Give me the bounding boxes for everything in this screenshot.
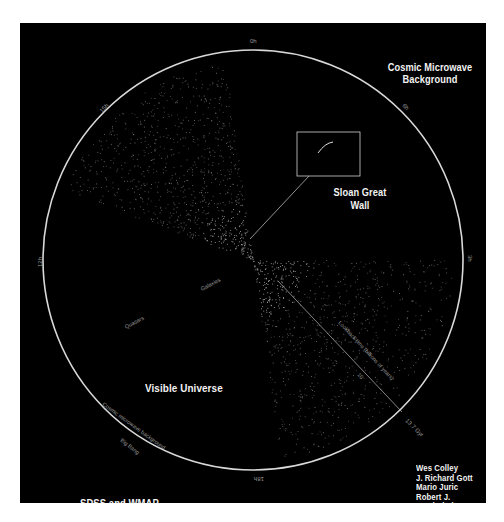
quasars-label: Quasars: [124, 315, 145, 330]
sgw-label-line1: Sloan Great: [312, 186, 409, 199]
tick-15h: 15h: [98, 102, 109, 113]
credits: Wes Colley J. Richard Gott Mario Juric R…: [416, 464, 479, 503]
cmb-label-line1: Cosmic Microwave: [368, 61, 486, 73]
tick-12h: 12h: [37, 257, 43, 267]
cmb-arc-label: Cosmic microwave background: [101, 401, 166, 451]
sloan-great-wall-arc: [318, 142, 333, 153]
tick-6h: 6h: [401, 102, 410, 111]
visible-universe-label: Visible Universe: [145, 382, 223, 394]
lookback-tick-10: 10: [356, 372, 365, 381]
source-label: SDSS and WMAP: [80, 497, 159, 503]
sgw-label-line2: Wall: [312, 199, 409, 212]
sloan-great-wall-label: Sloan Great Wall: [312, 186, 409, 212]
tick-lookback-end: 13.7 Gyr: [404, 417, 425, 438]
universe-map-svg: 0h 6h 3h 12h 15h 18h 13.7 Gyr Lookback t…: [20, 23, 486, 503]
big-bang-label: Big Bang: [119, 437, 140, 455]
tick-0h: 0h: [250, 38, 257, 44]
cmb-label: Cosmic Microwave Background: [368, 61, 486, 85]
callout-line: [250, 176, 309, 239]
lookback-axis-label: Lookback time (billions of years): [337, 320, 395, 382]
tick-18h: 18h: [254, 476, 264, 482]
galaxy-scatter: [71, 66, 452, 457]
sloan-great-wall-box: [297, 132, 360, 176]
cmb-label-line2: Background: [368, 73, 486, 85]
tick-3h: 3h: [467, 255, 473, 262]
galaxies-label: Galaxies: [200, 276, 222, 291]
credit-line: Robert J. Vanderbei: [416, 493, 479, 503]
universe-map-panel: 0h 6h 3h 12h 15h 18h 13.7 Gyr Lookback t…: [20, 23, 486, 503]
